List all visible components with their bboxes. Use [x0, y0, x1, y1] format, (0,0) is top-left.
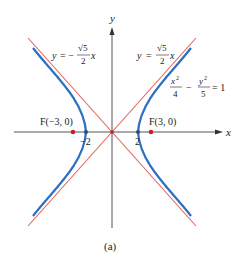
svg-text:y: y	[136, 50, 142, 61]
focus-left-label: F(−3, 0)	[40, 116, 73, 128]
vertex-left-point	[84, 130, 88, 134]
origin-point	[110, 130, 114, 134]
svg-text:x: x	[169, 50, 175, 61]
figure-caption: (a)	[104, 240, 117, 253]
y-axis-arrow-icon	[110, 27, 115, 35]
svg-text:−: −	[186, 82, 192, 93]
svg-text:2: 2	[160, 56, 165, 66]
focus-right-label: F(3, 0)	[149, 116, 176, 128]
svg-text:x: x	[170, 76, 175, 86]
vertex-right-label: 2	[135, 136, 140, 147]
svg-text:=: =	[146, 50, 152, 61]
vertex-left-label: −2	[80, 136, 91, 147]
svg-text:2: 2	[176, 75, 179, 81]
svg-text:x: x	[90, 50, 96, 61]
x-axis-arrow-icon	[215, 130, 223, 135]
svg-text:5: 5	[201, 89, 206, 99]
svg-text:y: y	[51, 50, 57, 61]
hyperbola-diagram: x y −2 2 F(−3, 0) F(3, 0) y = − √5 2 x y…	[0, 0, 233, 258]
asymptote-positive-label: y = √5 2 x	[136, 43, 175, 66]
svg-text:√5: √5	[157, 43, 167, 53]
svg-text:2: 2	[204, 75, 207, 81]
focus-left-point	[71, 130, 76, 135]
svg-text:= −: = −	[60, 50, 74, 61]
svg-text:2: 2	[81, 56, 86, 66]
focus-right-point	[149, 130, 154, 135]
y-axis-label: y	[109, 12, 115, 24]
asymptote-negative-label: y = − √5 2 x	[51, 43, 96, 66]
svg-text:4: 4	[173, 89, 178, 99]
hyperbola-equation-label: x 2 4 − y 2 5 = 1	[170, 75, 225, 99]
vertex-right-point	[136, 130, 140, 134]
x-axis-label: x	[225, 126, 231, 138]
svg-text:y: y	[198, 76, 203, 86]
svg-text:√5: √5	[78, 43, 88, 53]
svg-text:= 1: = 1	[212, 82, 225, 93]
